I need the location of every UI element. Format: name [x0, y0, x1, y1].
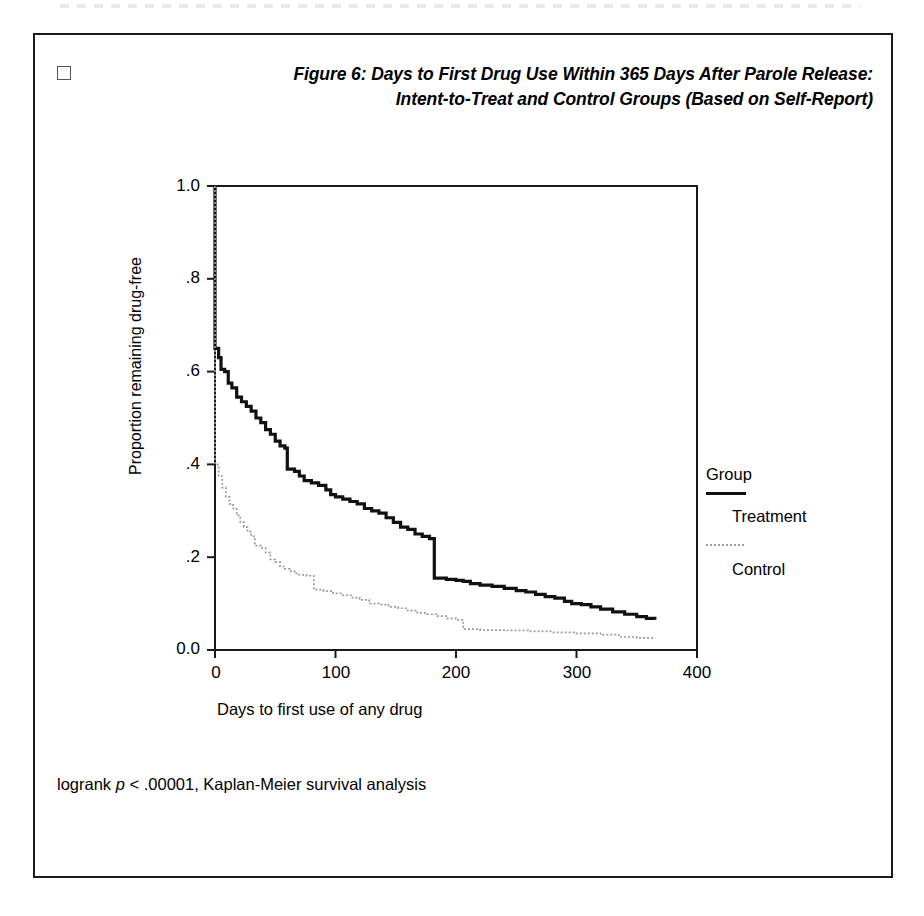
y-tick-label-0.0: 0.0	[142, 639, 200, 659]
legend-entry-treatment: Treatment	[704, 492, 879, 526]
y-tick-label-1.0: 1.0	[150, 176, 200, 196]
legend-title: Group	[706, 465, 879, 484]
x-tick-label-200: 200	[433, 663, 479, 683]
footnote-suffix: < .00001, Kaplan-Meier survival analysis	[125, 775, 426, 793]
footnote-prefix: logrank	[57, 775, 116, 793]
x-axis-ticks	[215, 650, 697, 658]
y-axis-label: Proportion remaining drug-free	[127, 246, 145, 486]
x-tick-label-400: 400	[674, 663, 720, 683]
figure-frame: Figure 6: Days to First Drug Use Within …	[33, 33, 893, 878]
series-line-treatment	[215, 186, 655, 620]
scan-artifact	[60, 4, 860, 8]
figure-footnote: logrank p < .00001, Kaplan-Meier surviva…	[57, 775, 426, 794]
y-tick-label-0.2: .2	[150, 547, 200, 567]
chart-plot-area: 1.0 .8 .6 .4 .2 0.0 0 100 200 300 400 Pr…	[35, 35, 895, 880]
legend-line-solid-icon	[706, 492, 746, 495]
x-axis-label: Days to first use of any drug	[217, 700, 422, 719]
y-tick-label-0.6: .6	[150, 361, 200, 381]
footnote-p-symbol: p	[116, 775, 125, 793]
chart-legend: Group Treatment Control	[704, 465, 879, 597]
y-tick-label-0.8: .8	[150, 268, 200, 288]
data-series-layer	[215, 186, 655, 638]
legend-label-control: Control	[732, 560, 879, 579]
x-tick-label-100: 100	[313, 663, 359, 683]
legend-line-dotted-icon	[706, 544, 746, 546]
x-tick-label-0: 0	[207, 663, 225, 683]
legend-entry-control: Control	[704, 544, 879, 579]
x-tick-label-300: 300	[554, 663, 600, 683]
y-tick-label-0.4: .4	[150, 454, 200, 474]
legend-label-treatment: Treatment	[732, 507, 879, 526]
